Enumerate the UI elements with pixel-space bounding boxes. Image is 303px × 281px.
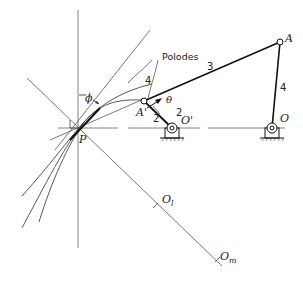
label-o: O — [280, 112, 289, 125]
moving-polode-curve — [22, 84, 152, 228]
pivot-a-prime — [141, 98, 147, 104]
label-a: A — [284, 32, 293, 45]
pivot-a — [277, 39, 283, 45]
label-phi: ϕ — [85, 92, 93, 105]
linkage-diagram: Polodes 3 4 4 2 2 A A' O O' P ϕ θ Ol Om — [0, 0, 303, 281]
label-p: P — [78, 133, 87, 146]
fixed-polode-curve — [22, 100, 142, 196]
ground-support-o — [260, 123, 284, 141]
theta-arrowhead — [155, 98, 162, 104]
label-a-prime: A' — [135, 106, 147, 119]
link-4-curve-label: 4 — [145, 75, 151, 86]
label-ol: Ol — [162, 193, 174, 208]
label-om: Om — [220, 250, 237, 265]
label-o-prime: O' — [181, 114, 193, 127]
right-angle-marker — [70, 120, 78, 128]
link-4-right-label: 4 — [280, 82, 286, 93]
shallow-line — [50, 98, 146, 140]
link-2-lower-label: 2 — [153, 113, 159, 124]
link-3-label: 3 — [207, 61, 213, 72]
ol-tick — [153, 203, 158, 208]
link-4 — [272, 42, 280, 128]
label-theta: θ — [166, 94, 172, 105]
polodes-label: Polodes — [162, 51, 199, 62]
common-normal-line — [27, 78, 222, 266]
extra-curve — [39, 122, 84, 222]
